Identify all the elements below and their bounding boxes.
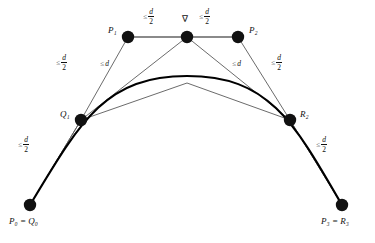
node-apex[interactable] [181,31,193,43]
fraction-numerator: d [61,54,67,62]
fraction-denominator: 2 [61,64,67,72]
fraction-d-over-2: d 2 [276,54,282,71]
fraction-d-over-2: d 2 [204,8,210,25]
node-p0-q0[interactable] [24,199,36,211]
segment-q1-p1 [81,37,128,120]
relation-symbol: ≤ [271,59,275,67]
relation-symbol: ≤ [100,60,104,68]
relation-symbol: ≤ [316,141,320,149]
fraction-numerator: d [204,8,210,16]
measure-apex-p2: ≤ d 2 [199,8,210,25]
measure-p2-r2: ≤ d 2 [271,54,282,71]
node-p1[interactable] [122,31,134,43]
node-p2[interactable] [232,31,244,43]
measure-q1-apex: ≤ d [100,60,109,68]
distance-variable: d [105,60,109,68]
fraction-numerator: d [148,8,154,16]
fraction-denominator: 2 [276,64,282,72]
fraction-d-over-2: d 2 [321,136,327,153]
fraction-denominator: 2 [23,146,29,154]
label-q1: Q₁ [60,110,70,119]
fraction-numerator: d [23,136,29,144]
relation-symbol: ≤ [199,13,203,21]
diagram-canvas: P₁ ∇ P₂ Q₁ R₂ P₀ = Q₀ P₃ = R₃ ≤ d 2 ≤ d … [0,0,375,243]
inner-polyline-arc [30,83,342,205]
fraction-denominator: 2 [321,146,327,154]
bezier-subdivision-figure [0,0,375,243]
nabla-icon: ∇ [182,15,188,24]
label-p0-q0: P₀ = Q₀ [9,217,38,226]
fraction-d-over-2: d 2 [23,136,29,153]
relation-symbol: ≤ [232,60,236,68]
node-q1[interactable] [75,114,87,126]
bezier-curve [30,76,342,205]
label-p1: P₁ [108,26,117,35]
node-p3-r3[interactable] [336,199,348,211]
measure-p1-apex: ≤ d 2 [143,8,154,25]
measure-p0-q1: ≤ d 2 [18,136,29,153]
measure-q1-p1: ≤ d 2 [56,54,67,71]
node-r2[interactable] [284,114,296,126]
measure-r2-p3: ≤ d 2 [316,136,327,153]
label-p3-r3: P₃ = R₃ [321,217,349,226]
relation-symbol: ≤ [56,59,60,67]
label-p2: P₂ [249,26,258,35]
relation-symbol: ≤ [143,13,147,21]
fraction-d-over-2: d 2 [148,8,154,25]
fraction-numerator: d [276,54,282,62]
fraction-denominator: 2 [204,18,210,26]
fraction-d-over-2: d 2 [61,54,67,71]
distance-variable: d [237,60,241,68]
measure-apex-r2: ≤ d [232,60,241,68]
fraction-denominator: 2 [148,18,154,26]
relation-symbol: ≤ [18,141,22,149]
segment-p2-r2 [238,37,290,120]
label-r2: R₂ [300,110,309,119]
fraction-numerator: d [321,136,327,144]
